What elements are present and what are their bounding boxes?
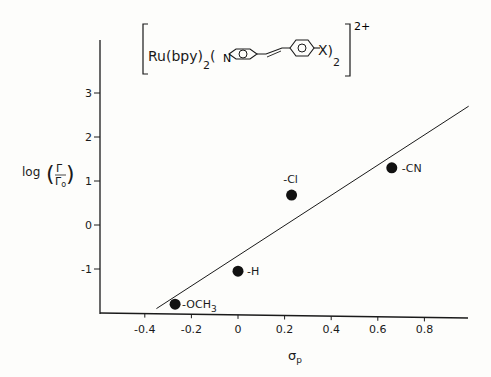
data-point-label: -H <box>247 265 259 278</box>
y-tick-label: 2 <box>85 131 92 144</box>
data-point-label: -CN <box>402 162 422 175</box>
formula-prefix: Ru(bpy) <box>148 48 203 64</box>
formula-open-paren: ( <box>210 48 215 64</box>
scatter-chart: Ru(bpy)2( N X)2 2+ 3210-1 -0.4-0.200.20.… <box>0 0 491 377</box>
x-axis <box>100 313 468 318</box>
data-point <box>170 299 181 310</box>
y-axis-label: log ( Γ Γo ) <box>22 161 75 189</box>
x-tick-label: 0.4 <box>322 323 340 336</box>
svg-text:log: log <box>22 165 40 179</box>
data-point <box>286 190 297 201</box>
y-axis-ticks: 3210-1 <box>81 87 100 276</box>
svg-text:(: ( <box>46 161 55 186</box>
formula-pyridine-n: N <box>223 52 231 65</box>
chart-title-formula: Ru(bpy)2( N X)2 2+ <box>143 20 370 76</box>
y-tick-label: 3 <box>85 87 92 100</box>
formula-prefix-sub: 2 <box>203 59 210 72</box>
x-tick-label: 0 <box>235 323 242 336</box>
data-points: -OCH3-H-Cl-CN <box>170 162 422 314</box>
y-tick-label: 1 <box>85 175 92 188</box>
formula-ligand-sub: 2 <box>333 56 340 69</box>
x-tick-label: 0.2 <box>276 323 294 336</box>
y-tick-label: -1 <box>81 263 92 276</box>
regression-line <box>156 106 468 308</box>
formula-charge: 2+ <box>354 20 370 33</box>
svg-text:σp: σp <box>288 348 302 365</box>
svg-text:X)2: X)2 <box>318 42 340 69</box>
data-point-label: -Cl <box>283 173 298 186</box>
x-tick-label: 0.8 <box>416 323 434 336</box>
y-label-numerator: Γ <box>56 162 63 175</box>
x-axis-label: σp <box>288 348 302 365</box>
svg-text:): ) <box>66 161 75 186</box>
x-tick-label: -0.4 <box>134 323 155 336</box>
x-tick-label: -0.2 <box>181 323 202 336</box>
data-point-label: -OCH3 <box>182 298 217 314</box>
data-point <box>233 266 244 277</box>
data-point <box>386 162 397 173</box>
x-tick-label: 0.6 <box>369 323 387 336</box>
formula-substituent-x: X <box>318 42 328 58</box>
svg-text:Ru(bpy)2(: Ru(bpy)2( <box>148 48 215 72</box>
svg-text:Γo: Γo <box>55 175 66 189</box>
y-tick-label: 0 <box>85 219 92 232</box>
